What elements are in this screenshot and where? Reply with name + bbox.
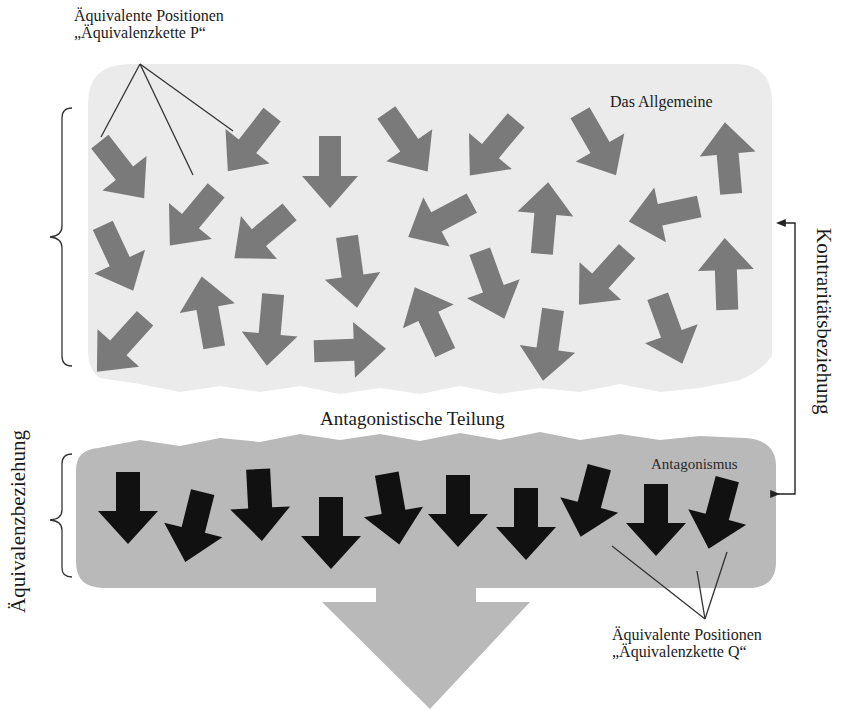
equivalence-bracket-bottom: [50, 454, 72, 577]
gap-left: [322, 588, 376, 602]
equivalence-relation-label: Äquivalenzbeziehung: [6, 430, 31, 613]
outcome-arrow: [322, 586, 530, 709]
chain-p-label-line1: Äquivalente Positionen: [74, 8, 224, 25]
antagonism-label: Antagonismus: [651, 457, 738, 473]
chain-q-label-line2: „Äquivalenzkette Q“: [612, 644, 762, 661]
gap-right: [476, 588, 532, 602]
equivalence-bracket-top: [50, 108, 72, 366]
diagram-svg: [0, 0, 849, 711]
contrariety-relation-label-wrap: Kontraritätsbeziehung: [808, 228, 838, 488]
contrariety-bracket: [778, 223, 795, 494]
chain-q-label: Äquivalente Positionen „Äquivalenzkette …: [612, 627, 762, 661]
chain-q-label-line1: Äquivalente Positionen: [612, 627, 762, 644]
general-region-label: Das Allgemeine: [610, 94, 713, 111]
contrariety-relation-label: Kontraritätsbeziehung: [811, 228, 836, 415]
equivalence-relation-label-wrap: Äquivalenzbeziehung: [2, 243, 32, 613]
division-label: Antagonistische Teilung: [320, 409, 505, 429]
diagram-canvas: Äquivalente Positionen „Äquivalenzkette …: [0, 0, 849, 711]
chain-p-label-line2: „Äquivalenzkette P“: [74, 25, 224, 42]
chain-p-label: Äquivalente Positionen „Äquivalenzkette …: [74, 8, 224, 42]
